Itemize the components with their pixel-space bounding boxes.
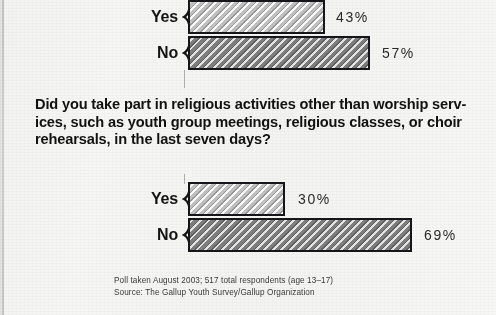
bar-wrap-yes-bottom: 30% <box>188 182 488 216</box>
footnote-line-2: Source: The Gallup Youth Survey/Gallup O… <box>114 287 474 299</box>
chart-row-no-top: No 57% <box>0 36 496 70</box>
chart-row-no-bottom: No 69% <box>0 218 496 252</box>
bar-wrap-no-top: 57% <box>188 36 488 70</box>
bar-value-no-bottom: 69% <box>424 218 457 252</box>
bar-yes-top <box>188 0 325 34</box>
bar-no-bottom <box>188 218 412 252</box>
category-label-yes-top: Yes <box>118 0 178 34</box>
bar-chart-bottom: Yes 30% No 69% <box>0 182 496 272</box>
bar-value-yes-bottom: 30% <box>298 182 331 216</box>
axis-baseline-tick-bottom <box>184 174 185 184</box>
question-line-3: rehearsals, in the last seven days? <box>35 131 485 149</box>
chart-row-yes-top: Yes 43% <box>0 0 496 34</box>
chart-row-yes-bottom: Yes 30% <box>0 182 496 216</box>
question-line-2: ices, such as youth group meetings, reli… <box>35 114 485 132</box>
bar-chart-top: Yes 43% No 57% <box>0 0 496 84</box>
bar-value-no-top: 57% <box>382 36 415 70</box>
category-label-no-bottom: No <box>118 218 178 252</box>
poll-infographic-page: Yes 43% No 57% <box>0 0 496 315</box>
category-label-yes-bottom: Yes <box>118 182 178 216</box>
axis-baseline-tick-top <box>184 70 185 88</box>
category-label-no-top: No <box>118 36 178 70</box>
footnote-line-1: Poll taken August 2003; 517 total respon… <box>114 275 474 287</box>
footnote: Poll taken August 2003; 517 total respon… <box>114 275 474 298</box>
bar-yes-bottom <box>188 182 285 216</box>
question-line-1: Did you take part in religious activitie… <box>35 96 485 114</box>
bar-wrap-no-bottom: 69% <box>188 218 488 252</box>
question-text: Did you take part in religious activitie… <box>35 96 485 149</box>
bar-value-yes-top: 43% <box>336 0 369 34</box>
bar-no-top <box>188 36 370 70</box>
bar-wrap-yes-top: 43% <box>188 0 488 34</box>
